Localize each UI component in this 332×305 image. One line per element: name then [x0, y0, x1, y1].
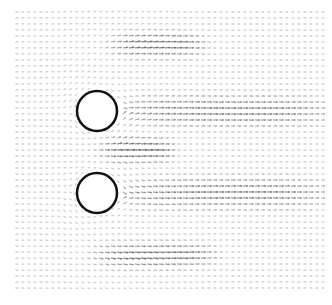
- arrowhead-icon: [151, 149, 153, 151]
- arrowhead-icon: [137, 227, 139, 229]
- arrowhead-icon: [204, 251, 206, 253]
- arrowhead-icon: [276, 113, 278, 115]
- arrowhead-icon: [263, 209, 265, 211]
- arrowhead-icon: [137, 203, 139, 205]
- arrowhead-icon: [226, 275, 228, 277]
- arrowhead-icon: [244, 11, 246, 13]
- arrowhead-icon: [282, 119, 284, 121]
- arrowhead-icon: [40, 245, 42, 247]
- arrowhead-icon: [281, 167, 283, 169]
- arrowhead-icon: [22, 275, 24, 277]
- arrowhead-icon: [311, 41, 313, 43]
- arrowhead-icon: [250, 41, 252, 43]
- arrowhead-icon: [221, 167, 223, 169]
- arrowhead-icon: [145, 46, 147, 48]
- arrowhead-icon: [281, 35, 283, 37]
- arrowhead-icon: [287, 23, 289, 25]
- arrowhead-icon: [269, 95, 271, 97]
- arrowhead-icon: [180, 35, 182, 37]
- arrowhead-icon: [221, 53, 223, 55]
- arrowhead-icon: [106, 233, 108, 235]
- arrowhead-icon: [209, 275, 211, 277]
- arrowhead-icon: [35, 173, 37, 175]
- arrowhead-icon: [276, 203, 278, 205]
- arrowhead-icon: [263, 143, 265, 145]
- arrowhead-icon: [179, 59, 181, 61]
- arrowhead-icon: [143, 239, 145, 241]
- arrowhead-icon: [287, 233, 289, 235]
- arrowhead-icon: [121, 149, 123, 151]
- arrowhead-icon: [29, 131, 31, 133]
- arrowhead-icon: [293, 161, 295, 163]
- arrowhead-icon: [132, 107, 134, 109]
- arrowhead-icon: [173, 89, 175, 91]
- arrowhead-icon: [221, 161, 223, 163]
- arrowhead-icon: [257, 35, 259, 37]
- arrowhead-icon: [40, 233, 42, 235]
- arrowhead-icon: [305, 263, 307, 265]
- arrowhead-icon: [148, 65, 150, 67]
- arrowhead-icon: [263, 287, 265, 289]
- arrowhead-icon: [305, 149, 307, 151]
- arrowhead-icon: [299, 173, 301, 175]
- arrowhead-icon: [58, 107, 60, 109]
- arrowhead-icon: [215, 23, 217, 25]
- arrowhead-icon: [226, 215, 228, 217]
- arrowhead-icon: [215, 209, 217, 211]
- arrowhead-icon: [275, 41, 277, 43]
- arrowhead-icon: [275, 137, 277, 139]
- arrowhead-icon: [232, 65, 234, 67]
- arrowhead-icon: [161, 95, 163, 97]
- arrowhead-icon: [52, 41, 54, 43]
- arrowhead-icon: [35, 179, 37, 181]
- arrowhead-icon: [299, 215, 301, 217]
- arrowhead-icon: [180, 107, 182, 109]
- arrowhead-icon: [269, 137, 271, 139]
- arrowhead-icon: [311, 29, 313, 31]
- arrowhead-icon: [282, 191, 284, 193]
- arrowhead-icon: [161, 89, 163, 91]
- arrowhead-icon: [137, 209, 139, 211]
- arrowhead-icon: [52, 197, 54, 199]
- arrowhead-icon: [28, 101, 30, 103]
- arrowhead-icon: [203, 131, 205, 133]
- arrowhead-icon: [58, 191, 60, 193]
- arrowhead-icon: [148, 221, 150, 223]
- arrowhead-icon: [174, 119, 176, 121]
- arrowhead-icon: [185, 29, 187, 31]
- arrowhead-icon: [74, 105, 76, 107]
- arrowhead-icon: [288, 203, 290, 205]
- arrowhead-icon: [281, 239, 283, 241]
- arrowhead-icon: [232, 269, 234, 271]
- arrowhead-icon: [299, 41, 301, 43]
- arrowhead-icon: [257, 17, 259, 19]
- arrowhead-icon: [17, 125, 19, 127]
- arrowhead-icon: [210, 107, 212, 109]
- arrowhead-icon: [269, 233, 271, 235]
- arrowhead-icon: [130, 83, 132, 85]
- arrowhead-icon: [281, 161, 283, 163]
- arrowhead-icon: [323, 11, 325, 13]
- arrowhead-icon: [232, 53, 234, 55]
- arrowhead-icon: [232, 71, 234, 73]
- arrowhead-icon: [142, 83, 144, 85]
- arrowhead-icon: [137, 95, 139, 97]
- arrowhead-icon: [269, 179, 271, 181]
- arrowhead-icon: [131, 77, 133, 79]
- arrowhead-icon: [221, 251, 223, 253]
- arrowhead-icon: [29, 155, 31, 157]
- arrowhead-icon: [275, 155, 277, 157]
- arrowhead-icon: [168, 149, 170, 151]
- arrowhead-icon: [58, 59, 60, 61]
- arrowhead-icon: [23, 137, 25, 139]
- arrowhead-icon: [281, 257, 283, 259]
- arrowhead-icon: [263, 71, 265, 73]
- arrowhead-icon: [263, 227, 265, 229]
- arrowhead-icon: [137, 221, 139, 223]
- arrowhead-icon: [323, 233, 325, 235]
- arrowhead-icon: [186, 185, 188, 187]
- arrowhead-icon: [221, 95, 223, 97]
- arrowhead-icon: [215, 59, 217, 61]
- arrowhead-icon: [186, 41, 188, 43]
- arrowhead-icon: [293, 23, 295, 25]
